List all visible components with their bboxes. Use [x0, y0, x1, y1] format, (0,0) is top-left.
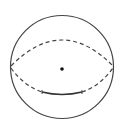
sphere-diagram [0, 0, 124, 128]
lower-visible-arc [42, 92, 82, 95]
center-point [60, 67, 64, 71]
upper-hidden-arc [11, 40, 113, 66]
sphere-outline [11, 16, 114, 119]
